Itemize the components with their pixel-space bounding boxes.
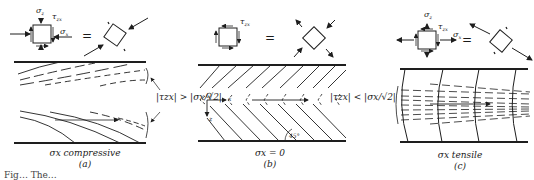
stress-state-figure: σz τzx σx =	[0, 0, 534, 180]
panel-letter-a: (a)	[40, 159, 130, 169]
body-a	[14, 62, 160, 143]
tau-zx-label-a: τzx	[52, 12, 62, 22]
inequality-label-c: |τzx| < |σx/√2|	[330, 92, 396, 102]
tau-zx-label-b: τzx	[240, 17, 250, 27]
panel-a: σz τzx σx =	[10, 6, 160, 143]
sigma-z-label-a: σz	[36, 6, 44, 16]
inequality-label-a: |τzx| > |σx/√2|	[156, 92, 222, 102]
sigma-x-label-c: σx	[453, 30, 461, 40]
tau-zx-label-c: τzx	[438, 22, 448, 32]
rotated-element-a	[84, 18, 148, 56]
panel-b: τzx =	[198, 17, 346, 141]
panel-letter-b: (b)	[230, 159, 310, 169]
condition-label-c: σx tensile	[420, 150, 500, 160]
condition-label-b: σx = 0	[230, 148, 310, 158]
equals-sign-a: =	[82, 29, 92, 43]
rotated-element-c	[470, 24, 532, 60]
figure-caption: Fig… The…	[0, 170, 534, 180]
body-c	[396, 69, 530, 142]
stress-element-b	[216, 26, 239, 48]
condition-label-a: σx compressive	[40, 148, 130, 158]
angle-label-b: 45°	[288, 132, 300, 139]
z-axis-label-b: z	[208, 115, 213, 122]
sigma-x-label-a: σx	[60, 27, 68, 37]
body-b	[198, 65, 346, 141]
equals-sign-c: =	[462, 33, 472, 47]
panel-c: σz τzx σx =	[396, 10, 532, 142]
sigma-z-label-c: σz	[424, 10, 432, 20]
equals-sign-b: =	[265, 31, 275, 45]
rotated-element-b	[294, 20, 335, 57]
